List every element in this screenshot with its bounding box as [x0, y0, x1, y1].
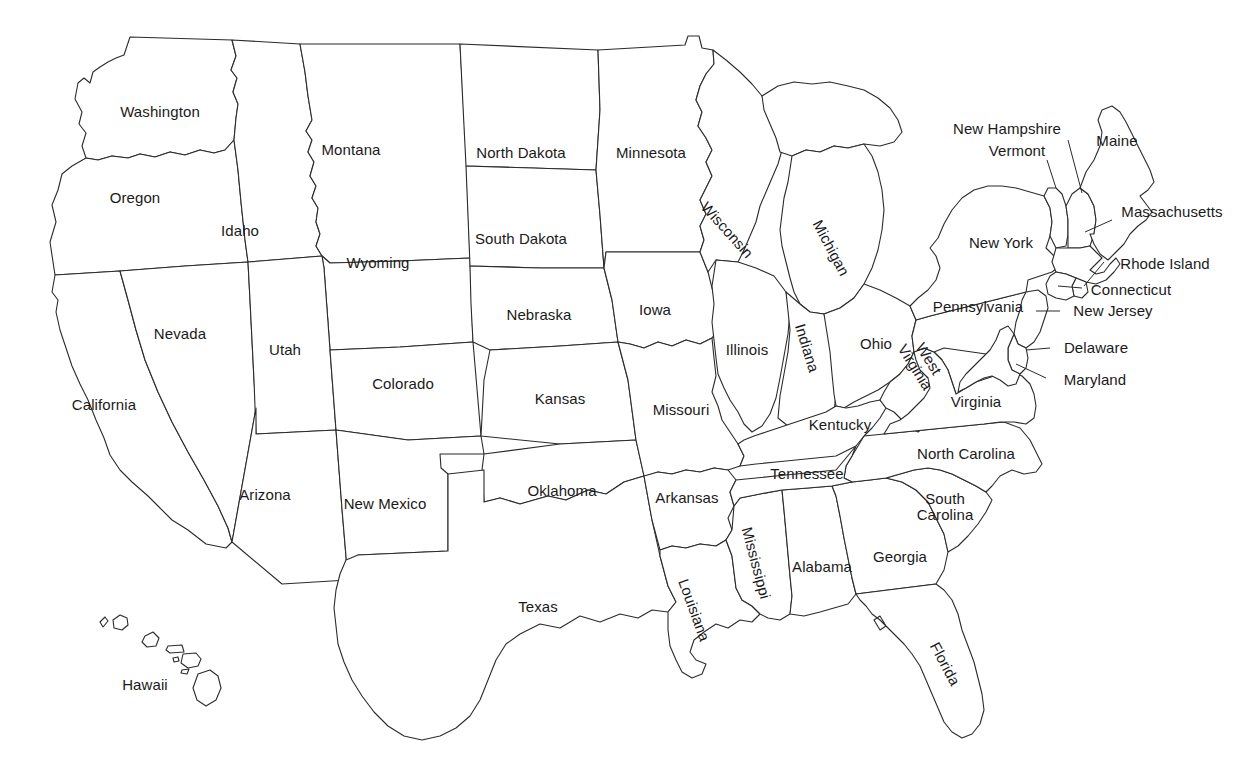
- state-label-oklahoma[interactable]: Oklahoma: [527, 483, 596, 499]
- state-label-ohio[interactable]: Ohio: [860, 336, 892, 352]
- state-label-idaho[interactable]: Idaho: [221, 223, 259, 239]
- leader-line-new-hampshire: [1068, 140, 1082, 193]
- state-label-arkansas[interactable]: Arkansas: [655, 490, 718, 506]
- state-label-wyoming[interactable]: Wyoming: [346, 255, 409, 271]
- state-label-montana[interactable]: Montana: [321, 142, 380, 158]
- state-shape-oregon[interactable]: [50, 140, 248, 275]
- us-states-map: WashingtonOregonIdahoMontanaNorth Dakota…: [0, 0, 1246, 781]
- state-shape-hawaii-bigisland[interactable]: [193, 670, 221, 706]
- state-label-kansas[interactable]: Kansas: [535, 391, 586, 407]
- state-label-illinois[interactable]: Illinois: [726, 342, 768, 358]
- state-shape-hawaii-niihau[interactable]: [100, 617, 108, 627]
- state-shape-iowa[interactable]: [604, 252, 720, 348]
- state-shape-florida[interactable]: [856, 584, 984, 738]
- state-label-maryland[interactable]: Maryland: [1064, 372, 1127, 388]
- state-label-missouri[interactable]: Missouri: [653, 402, 710, 418]
- state-shape-maine[interactable]: [1080, 106, 1154, 260]
- state-label-line: Carolina: [917, 507, 974, 523]
- state-shape-hawaii-maui[interactable]: [181, 653, 201, 668]
- state-label-colorado[interactable]: Colorado: [372, 376, 434, 392]
- state-label-new-york[interactable]: New York: [969, 235, 1033, 251]
- state-label-utah[interactable]: Utah: [269, 342, 301, 358]
- state-shape-hawaii-kauai[interactable]: [113, 615, 128, 630]
- state-label-massachusetts[interactable]: Massachusetts: [1121, 204, 1222, 220]
- state-label-rhode-island[interactable]: Rhode Island: [1120, 256, 1210, 272]
- state-label-vermont[interactable]: Vermont: [989, 143, 1046, 159]
- state-label-north-carolina[interactable]: North Carolina: [917, 446, 1015, 462]
- state-label-nebraska[interactable]: Nebraska: [507, 307, 572, 323]
- state-label-delaware[interactable]: Delaware: [1064, 340, 1128, 356]
- state-label-washington[interactable]: Washington: [120, 104, 200, 120]
- leader-line-delaware: [1026, 348, 1050, 350]
- state-label-nevada[interactable]: Nevada: [154, 326, 206, 342]
- state-label-connecticut[interactable]: Connecticut: [1091, 282, 1171, 298]
- state-label-california[interactable]: California: [72, 397, 136, 413]
- state-label-georgia[interactable]: Georgia: [873, 549, 927, 565]
- state-shape-hawaii-lanai[interactable]: [173, 657, 179, 662]
- state-label-iowa[interactable]: Iowa: [639, 302, 671, 318]
- state-label-pennsylvania[interactable]: Pennsylvania: [933, 299, 1023, 315]
- state-label-virginia[interactable]: Virginia: [951, 394, 1002, 410]
- state-shape-arkansas[interactable]: [644, 468, 736, 550]
- state-label-arizona[interactable]: Arizona: [239, 487, 291, 503]
- state-label-new-mexico[interactable]: New Mexico: [344, 496, 427, 512]
- state-shape-southdakota[interactable]: [466, 166, 604, 268]
- state-label-south-dakota[interactable]: South Dakota: [475, 231, 567, 247]
- state-shape-hawaii-molokai[interactable]: [166, 645, 184, 653]
- state-label-south-carolina[interactable]: SouthCarolina: [917, 491, 974, 523]
- state-label-line: South: [917, 491, 974, 507]
- leader-line-vermont: [1047, 160, 1056, 188]
- state-shape-michigan-upper[interactable]: [762, 82, 902, 156]
- state-label-alabama[interactable]: Alabama: [792, 559, 852, 575]
- state-shape-hawaii-kahoolawe[interactable]: [181, 669, 189, 674]
- state-shape-washington[interactable]: [75, 37, 238, 160]
- state-label-new-jersey[interactable]: New Jersey: [1073, 303, 1152, 319]
- state-label-oregon[interactable]: Oregon: [110, 190, 161, 206]
- state-label-north-dakota[interactable]: North Dakota: [476, 145, 566, 161]
- state-label-maine[interactable]: Maine: [1096, 133, 1137, 149]
- state-shape-hawaii-oahu[interactable]: [142, 632, 159, 647]
- state-label-minnesota[interactable]: Minnesota: [616, 145, 686, 161]
- state-label-new-hampshire[interactable]: New Hampshire: [953, 121, 1061, 137]
- state-label-hawaii[interactable]: Hawaii: [122, 677, 168, 693]
- state-label-texas[interactable]: Texas: [518, 599, 558, 615]
- state-label-kentucky[interactable]: Kentucky: [809, 417, 872, 433]
- state-label-tennessee[interactable]: Tennessee: [770, 466, 843, 482]
